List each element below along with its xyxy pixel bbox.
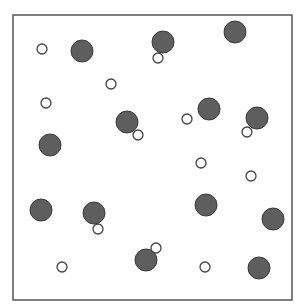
large-particle xyxy=(39,134,61,156)
small-particle xyxy=(37,44,47,54)
large-particle xyxy=(224,21,246,43)
particle-diagram xyxy=(0,0,308,308)
small-particle xyxy=(106,79,116,89)
small-particle xyxy=(41,98,51,108)
small-particle xyxy=(196,158,206,168)
large-particle xyxy=(195,194,217,216)
large-particle xyxy=(198,98,220,120)
small-particle xyxy=(153,53,163,63)
small-particle xyxy=(93,224,103,234)
small-particle xyxy=(246,171,256,181)
large-particle xyxy=(262,208,284,230)
large-particle xyxy=(83,202,105,224)
large-particle xyxy=(116,111,138,133)
large-particle xyxy=(248,257,270,279)
small-particle xyxy=(133,130,143,140)
large-particle xyxy=(246,107,268,129)
small-particle xyxy=(57,262,67,272)
large-particle xyxy=(152,31,174,53)
small-particle xyxy=(200,262,210,272)
small-particle xyxy=(151,243,161,253)
large-particle xyxy=(30,199,52,221)
small-particle xyxy=(182,114,192,124)
large-particle xyxy=(71,40,93,62)
small-particle xyxy=(242,127,252,137)
